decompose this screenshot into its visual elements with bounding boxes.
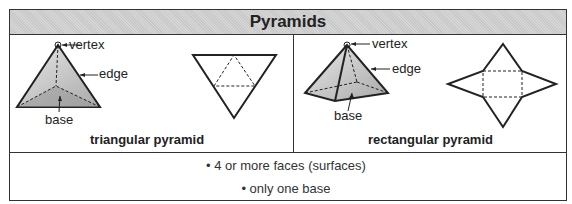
fact-faces: • 4 or more faces (surfaces) — [0, 158, 572, 173]
vertex-label: vertex — [372, 36, 407, 51]
fact-base: • only one base — [0, 181, 572, 196]
base-label: base — [334, 108, 362, 123]
rectangular-pyramid-caption: rectangular pyramid — [368, 132, 493, 147]
base-label: base — [45, 112, 73, 127]
triangular-pyramid-figure — [17, 42, 100, 112]
pyramid-diagrams — [0, 0, 572, 204]
rectangular-pyramid-net — [448, 44, 556, 127]
vertex-label: vertex — [69, 37, 104, 52]
edge-label: edge — [392, 61, 421, 76]
rectangular-pyramid-figure — [305, 42, 390, 111]
triangular-pyramid-net — [193, 55, 276, 118]
triangular-pyramid-caption: triangular pyramid — [90, 132, 204, 147]
edge-label: edge — [99, 66, 128, 81]
